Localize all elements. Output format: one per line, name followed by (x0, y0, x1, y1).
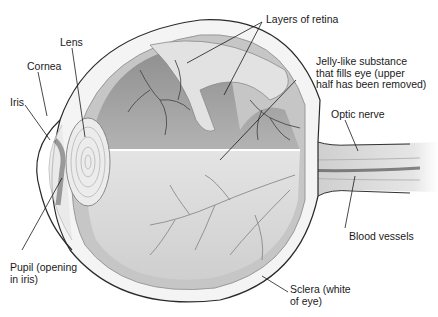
label-blood-vessels: Blood vessels (349, 231, 414, 243)
label-line: half has been removed) (316, 79, 426, 91)
label-cornea: Cornea (27, 61, 61, 73)
label-line: Blood vessels (349, 231, 414, 243)
label-line: Iris (10, 97, 24, 109)
label-line: Pupil (opening (10, 262, 77, 274)
label-line: Lens (60, 37, 83, 49)
label-line: Cornea (27, 61, 61, 73)
label-optic-nerve: Optic nerve (331, 109, 385, 121)
lens-shape (66, 118, 110, 206)
label-sclera: Sclera (white of eye) (290, 284, 351, 307)
label-layers-of-retina: Layers of retina (266, 14, 338, 26)
eye-diagram: Layers of retina Lens Cornea Jelly-like … (0, 0, 438, 317)
label-iris: Iris (10, 97, 24, 109)
label-lens: Lens (60, 37, 83, 49)
label-line: in iris) (10, 274, 77, 286)
label-pupil: Pupil (opening in iris) (10, 262, 77, 285)
label-line: Layers of retina (266, 14, 338, 26)
label-jelly-like-substance: Jelly-like substance that fills eye (upp… (316, 56, 426, 91)
label-line: Optic nerve (331, 109, 385, 121)
optic-nerve-shape (300, 142, 438, 196)
label-line: of eye) (290, 296, 351, 308)
label-line: Sclera (white (290, 284, 351, 296)
label-line: Jelly-like substance (316, 56, 426, 68)
